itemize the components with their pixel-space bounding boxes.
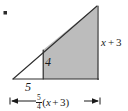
dimension-right-arrowhead — [92, 98, 99, 104]
label-base-left: 5 — [25, 81, 31, 93]
dimension-expression-operator: + — [52, 96, 58, 108]
dimension-left-arrowhead — [11, 98, 18, 104]
dimension-expression-constant: 3 — [60, 96, 66, 108]
label-right-side-constant: 3 — [116, 36, 122, 48]
dimension-fraction-denominator: 4 — [36, 102, 42, 111]
dimension-expression: (x+3) — [42, 97, 69, 108]
dimension-expression-variable: x — [46, 96, 51, 108]
label-inner-height: 4 — [45, 56, 51, 68]
label-dimension: 5 4 (x+3) — [36, 94, 69, 111]
dimension-fraction-numerator: 5 — [36, 94, 42, 102]
dimension-fraction: 5 4 — [36, 94, 42, 111]
label-right-side: x+3 — [101, 37, 122, 48]
label-right-side-variable: x — [101, 36, 106, 48]
shaded-trapezoid-region — [43, 6, 98, 79]
corner-bullet-mark — [4, 11, 8, 15]
geometry-figure: 4 5 x+3 5 4 (x+3) — [0, 0, 128, 111]
label-right-side-operator: + — [108, 36, 114, 48]
